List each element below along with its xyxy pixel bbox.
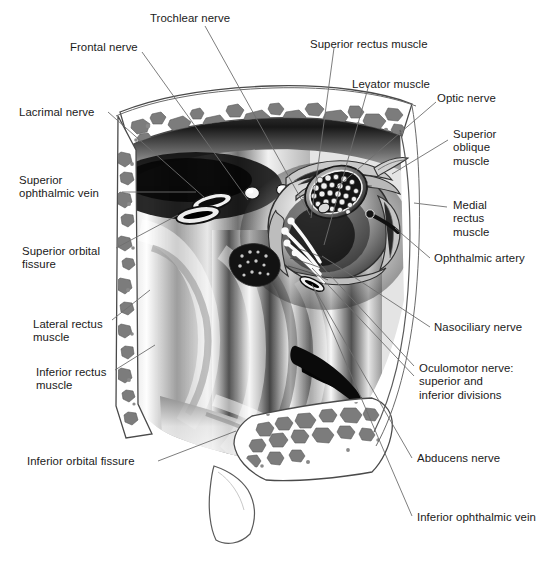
label-oculomotor-nerve: Oculomotor nerve:superior andinferior di… [419, 362, 514, 402]
orbital-apex-illustration [0, 0, 541, 561]
label-line: Levator muscle [352, 78, 430, 91]
label-line: Optic nerve [437, 92, 496, 105]
label-abducens-nerve: Abducens nerve [417, 452, 500, 465]
label-line: Abducens nerve [417, 452, 500, 465]
label-line: superior and [419, 375, 514, 388]
label-line: Ophthalmic artery [434, 252, 525, 265]
label-nasociliary-nerve: Nasociliary nerve [434, 321, 522, 334]
label-line: Inferior orbital fissure [27, 455, 135, 468]
label-inferior-rectus-muscle: Inferior rectusmuscle [36, 366, 106, 393]
label-superior-orbital-fissure: Superior orbitalfissure [22, 245, 100, 272]
label-line: rectus [453, 212, 489, 225]
label-ophthalmic-artery: Ophthalmic artery [434, 252, 525, 265]
label-line: Superior orbital [22, 245, 100, 258]
label-line: Inferior rectus [36, 366, 106, 379]
label-line: ophthalmic vein [19, 187, 99, 200]
label-medial-rectus-muscle: Medialrectusmuscle [453, 199, 489, 239]
label-superior-oblique-muscle: Superiorobliquemuscle [453, 128, 496, 168]
label-line: Lateral rectus [33, 318, 103, 331]
label-levator-muscle: Levator muscle [352, 78, 430, 91]
label-lateral-rectus-muscle: Lateral rectusmuscle [33, 318, 103, 345]
frontal-nerve-section [245, 187, 260, 199]
label-line: inferior divisions [419, 389, 514, 402]
label-line: fissure [22, 258, 100, 271]
anatomy-figure: Trochlear nerveFrontal nerveLacrimal ner… [0, 0, 541, 561]
label-line: Nasociliary nerve [434, 321, 522, 334]
label-line: Frontal nerve [70, 41, 138, 54]
label-line: muscle [453, 155, 496, 168]
label-line: Lacrimal nerve [19, 106, 94, 119]
label-line: Inferior ophthalmic vein [417, 511, 536, 524]
label-line: Superior [453, 128, 496, 141]
label-line: Oculomotor nerve: [419, 362, 514, 375]
label-lacrimal-nerve: Lacrimal nerve [19, 106, 94, 119]
label-inferior-orbital-fissure: Inferior orbital fissure [27, 455, 135, 468]
label-line: Medial [453, 199, 489, 212]
label-optic-nerve: Optic nerve [437, 92, 496, 105]
label-line: Superior rectus muscle [310, 38, 428, 51]
label-line: muscle [36, 379, 106, 392]
label-line: muscle [33, 331, 103, 344]
label-line: muscle [453, 226, 489, 239]
label-frontal-nerve: Frontal nerve [70, 41, 138, 54]
label-trochlear-nerve: Trochlear nerve [150, 12, 230, 25]
label-superior-ophthalmic-vein: Superiorophthalmic vein [19, 174, 99, 201]
label-line: Superior [19, 174, 99, 187]
label-inferior-ophthalmic-vein: Inferior ophthalmic vein [417, 511, 536, 524]
label-line: oblique [453, 141, 496, 154]
label-line: Trochlear nerve [150, 12, 230, 25]
label-superior-rectus-muscle: Superior rectus muscle [310, 38, 428, 51]
